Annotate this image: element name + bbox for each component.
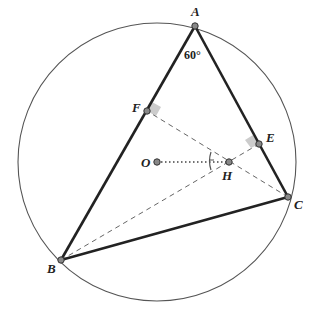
point-A — [192, 23, 198, 29]
point-C — [285, 194, 291, 200]
points — [58, 23, 291, 263]
label-C: C — [294, 197, 303, 212]
label-A: A — [190, 4, 200, 19]
label-O: O — [141, 155, 151, 170]
label-F: F — [131, 100, 141, 115]
point-O — [154, 159, 160, 165]
altitude-CF — [147, 111, 288, 197]
orthocenter-diagram: A B C E F H O 60° — [0, 0, 320, 315]
side-BC — [61, 197, 288, 260]
angle-arc-mark — [210, 152, 212, 170]
point-B — [58, 257, 64, 263]
point-F — [144, 108, 150, 114]
angle-label-A: 60° — [184, 48, 201, 62]
label-E: E — [265, 130, 275, 145]
point-E — [256, 141, 262, 147]
label-H: H — [221, 168, 233, 183]
point-H — [226, 159, 232, 165]
label-B: B — [46, 261, 56, 276]
side-AB — [61, 26, 195, 260]
